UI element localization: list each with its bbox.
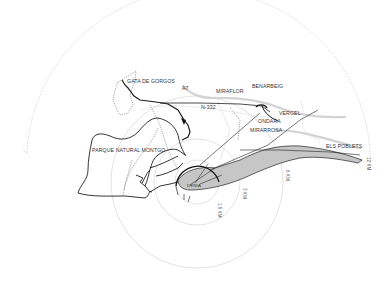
label-mirarrosa: MIRARROSA: [250, 127, 283, 133]
ring-12km-end: [23, 150, 27, 153]
label-12km: 12 KM: [366, 157, 371, 170]
label-n332: N-332: [201, 104, 216, 110]
label-6km: 6 KM: [285, 170, 290, 181]
label-3km: 3 KM: [242, 188, 247, 199]
label-a7: A7: [182, 85, 189, 91]
label-1-5km: 1.5 KM: [217, 203, 222, 218]
coastline: [78, 118, 186, 198]
label-parque-natural-montgo: PARQUE NATURAL MONTGO: [92, 147, 165, 153]
label-vergel: VERGEL: [279, 110, 301, 116]
label-els-poblets: ELS POBLETS: [326, 143, 363, 149]
ondara-junction: [256, 105, 267, 108]
label-gata-de-gorgos: GATA DE GORGOS: [127, 78, 175, 84]
road-gata-denia: [122, 80, 190, 140]
distance-rings: [23, 0, 370, 268]
map-canvas: GATA DE GORGOS A7 MIRAFLOR BENARBEIG N-3…: [0, 0, 391, 281]
label-miraflor: MIRAFLOR: [216, 88, 244, 94]
map-svg: GATA DE GORGOS A7 MIRAFLOR BENARBEIG N-3…: [0, 0, 391, 281]
label-benarbeig: BENARBEIG: [252, 83, 283, 89]
ring-12km: [27, 0, 370, 170]
road-marker: [181, 118, 186, 125]
label-ondara: ONDARA: [258, 118, 281, 124]
label-denia: DENIA: [187, 183, 201, 188]
